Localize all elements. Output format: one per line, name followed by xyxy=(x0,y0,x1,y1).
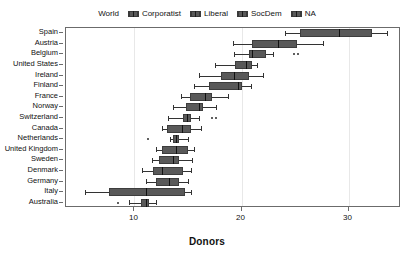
whisker-cap-low xyxy=(152,158,153,163)
boxplot-italy[interactable] xyxy=(66,187,399,197)
y-axis-tick xyxy=(59,138,63,139)
boxplot-swatch-icon xyxy=(128,10,139,19)
legend-item-socdem[interactable]: SocDem xyxy=(237,10,282,19)
boxplot-swatch-icon xyxy=(237,10,248,19)
legend-item-liberal[interactable]: Liberal xyxy=(190,10,228,19)
y-axis-tick xyxy=(59,117,63,118)
whisker-cap-low xyxy=(170,137,171,142)
median-line xyxy=(187,114,188,122)
whisker-cap-low xyxy=(233,41,234,46)
legend-item-label: Liberal xyxy=(204,10,228,18)
boxplot-germany[interactable] xyxy=(66,177,399,187)
boxplot-canada[interactable] xyxy=(66,124,399,134)
median-line xyxy=(246,61,247,69)
median-line xyxy=(252,50,253,58)
y-axis-label-australia: Australia xyxy=(29,198,58,206)
box-iqr xyxy=(221,72,249,80)
y-axis-labels: SpainAustriaBelgiumUnited StatesIrelandF… xyxy=(0,27,63,207)
median-line xyxy=(234,72,235,80)
y-axis-label-denmark: Denmark xyxy=(28,166,58,174)
box-iqr xyxy=(153,167,183,175)
boxplot-finland[interactable] xyxy=(66,81,399,91)
whisker-cap-high xyxy=(257,63,258,68)
boxplot-denmark[interactable] xyxy=(66,166,399,176)
box-iqr xyxy=(209,82,241,90)
y-axis-label-sweden: Sweden xyxy=(31,155,58,163)
boxplot-austria[interactable] xyxy=(66,39,399,49)
box-iqr xyxy=(252,40,297,48)
legend-item-label: NA xyxy=(305,10,316,18)
y-axis-label-france: France xyxy=(35,92,58,100)
y-axis-tick xyxy=(59,96,63,97)
outlier-point xyxy=(117,202,119,204)
whisker-cap-high xyxy=(194,147,195,152)
whisker-cap-low xyxy=(173,105,174,110)
y-axis-tick xyxy=(59,181,63,182)
chart-legend: WorldCorporatistLiberalSocDemNA xyxy=(0,6,414,22)
whisker-cap-low xyxy=(181,94,182,99)
median-line xyxy=(238,82,239,90)
y-axis-tick xyxy=(59,128,63,129)
x-axis-tick-20 xyxy=(241,207,242,211)
whisker-cap-low xyxy=(162,126,163,131)
median-line xyxy=(169,178,170,186)
boxplot-netherlands[interactable] xyxy=(66,134,399,144)
y-axis-label-canada: Canada xyxy=(32,124,58,132)
whisker-cap-high xyxy=(188,137,189,142)
x-axis-tick-30 xyxy=(348,207,349,211)
x-axis-ticklabel-10: 10 xyxy=(129,213,138,222)
chart-root: WorldCorporatistLiberalSocDemNA SpainAus… xyxy=(0,0,414,255)
y-axis-label-norway: Norway xyxy=(33,102,58,110)
y-axis-label-united-states: United States xyxy=(13,60,58,68)
whisker-cap-high xyxy=(199,116,200,121)
legend-item-corporatist[interactable]: Corporatist xyxy=(128,10,181,19)
y-axis-label-spain: Spain xyxy=(39,28,58,36)
boxplot-swatch-icon xyxy=(291,10,302,19)
whisker-cap-low xyxy=(85,190,86,195)
boxplot-spain[interactable] xyxy=(66,28,399,38)
x-axis-ticklabel-20: 20 xyxy=(236,213,245,222)
boxplot-swatch-icon xyxy=(190,10,201,19)
x-axis-tick-10 xyxy=(133,207,134,211)
box-iqr xyxy=(141,199,150,207)
plot-area xyxy=(65,27,400,207)
y-axis-tick xyxy=(59,106,63,107)
legend-item-label: Corporatist xyxy=(142,10,181,18)
whisker-cap-low xyxy=(129,200,130,205)
x-axis-ticklabel-30: 30 xyxy=(343,213,352,222)
median-line xyxy=(173,156,174,164)
whisker-cap-low xyxy=(215,63,216,68)
legend-item-na[interactable]: NA xyxy=(291,10,316,19)
y-axis-tick xyxy=(59,191,63,192)
median-line xyxy=(176,135,177,143)
boxplot-belgium[interactable] xyxy=(66,49,399,59)
whisker-cap-low xyxy=(146,179,147,184)
x-axis-title: Donors xyxy=(0,236,414,247)
whisker-cap-high xyxy=(387,31,388,36)
whisker-cap-low xyxy=(156,147,157,152)
y-axis-label-italy: Italy xyxy=(44,187,58,195)
boxplot-norway[interactable] xyxy=(66,102,399,112)
box-iqr xyxy=(190,93,211,101)
whisker-cap-low xyxy=(285,31,286,36)
outlier-point xyxy=(211,117,213,119)
boxplot-sweden[interactable] xyxy=(66,155,399,165)
boxplot-united-kingdom[interactable] xyxy=(66,145,399,155)
boxplot-ireland[interactable] xyxy=(66,71,399,81)
box-iqr xyxy=(162,146,188,154)
median-line xyxy=(339,29,340,37)
boxplot-australia[interactable] xyxy=(66,198,399,208)
y-axis-label-austria: Austria xyxy=(35,39,58,47)
y-axis-tick xyxy=(59,53,63,54)
boxplot-france[interactable] xyxy=(66,92,399,102)
y-axis-tick xyxy=(59,43,63,44)
box-iqr xyxy=(235,61,252,69)
median-line xyxy=(146,199,147,207)
boxplot-united-states[interactable] xyxy=(66,60,399,70)
whisker-cap-high xyxy=(273,52,274,57)
whisker-cap-high xyxy=(156,200,157,205)
box-iqr xyxy=(167,125,192,133)
median-line xyxy=(205,93,206,101)
y-axis-label-switzerland: Switzerland xyxy=(19,113,58,121)
boxplot-switzerland[interactable] xyxy=(66,113,399,123)
